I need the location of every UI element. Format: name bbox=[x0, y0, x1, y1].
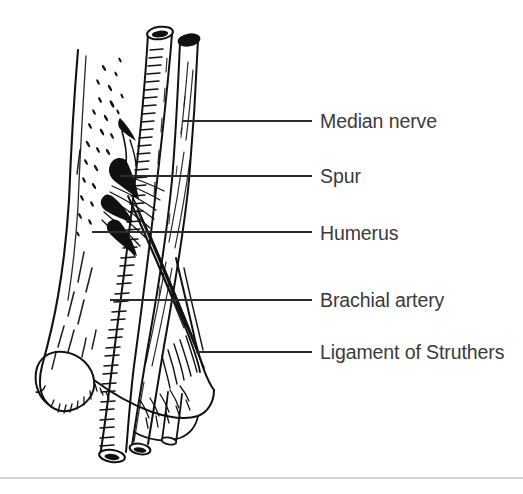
figure-background bbox=[0, 0, 523, 494]
label-humerus: Humerus bbox=[320, 222, 399, 244]
label-brachial-artery: Brachial artery bbox=[320, 289, 445, 311]
label-spur: Spur bbox=[320, 165, 361, 187]
anatomy-figure: Median nerve Spur Humerus Brachial arter… bbox=[0, 0, 523, 494]
label-median-nerve: Median nerve bbox=[320, 110, 437, 132]
anatomy-illustration: Median nerve Spur Humerus Brachial arter… bbox=[0, 0, 523, 494]
label-ligament-of-struthers: Ligament of Struthers bbox=[320, 341, 505, 363]
